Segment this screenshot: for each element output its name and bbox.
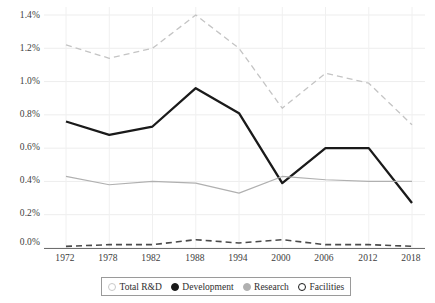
grid-lines: [44, 7, 425, 248]
legend-item-facilities[interactable]: Facilities: [298, 282, 344, 292]
chart-legend: Total R&DDevelopmentResearchFacilities: [101, 277, 351, 296]
legend-marker-icon: [171, 283, 179, 291]
legend-marker-icon: [243, 283, 251, 291]
plot-area: [0, 0, 435, 303]
legend-marker-icon: [108, 283, 116, 291]
legend-item-label: Facilities: [309, 282, 344, 292]
legend-item-label: Development: [182, 282, 233, 292]
legend-marker-icon: [298, 283, 306, 291]
legend-item-development[interactable]: Development: [171, 282, 234, 292]
legend-item-label: Total R&D: [120, 282, 162, 292]
line-chart: 1.4% 1.2% 1.0% 0.8% 0.6% 0.4% 0.2% 0.0% …: [0, 0, 435, 303]
legend-item-total-r-d[interactable]: Total R&D: [108, 282, 162, 292]
legend-item-label: Research: [254, 282, 289, 292]
legend-item-research[interactable]: Research: [243, 282, 289, 292]
